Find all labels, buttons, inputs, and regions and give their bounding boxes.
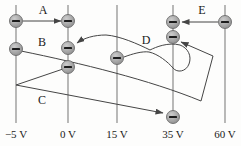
voltage-label-15v: 15 V	[106, 128, 128, 140]
negative-charge	[62, 42, 75, 55]
path-label-B: B	[38, 35, 46, 49]
negative-charge	[167, 31, 180, 44]
negative-charge	[62, 15, 75, 28]
voltage-label--5v: −5 V	[5, 128, 27, 140]
negative-charge	[10, 15, 23, 28]
negative-charge	[219, 16, 232, 29]
negative-charge	[111, 52, 124, 65]
negative-charge	[167, 111, 180, 124]
equipotential-diagram: −5 V0 V15 V35 V60 VABCDE	[0, 0, 241, 146]
path-label-D: D	[142, 33, 151, 47]
negative-charge	[62, 61, 75, 74]
minus-sign-icon	[113, 57, 121, 59]
minus-sign-icon	[12, 48, 20, 50]
voltage-label-0v: 0 V	[60, 128, 76, 140]
voltage-label-35v: 35 V	[162, 128, 184, 140]
minus-sign-icon	[64, 47, 72, 49]
diagram-canvas: −5 V0 V15 V35 V60 VABCDE	[0, 0, 241, 146]
negative-charge	[10, 43, 23, 56]
minus-sign-icon	[64, 20, 72, 22]
minus-sign-icon	[169, 36, 177, 38]
minus-sign-icon	[169, 116, 177, 118]
negative-charge	[167, 16, 180, 29]
minus-sign-icon	[64, 66, 72, 68]
path-label-C: C	[38, 93, 46, 107]
minus-sign-icon	[169, 21, 177, 23]
minus-sign-icon	[221, 21, 229, 23]
minus-sign-icon	[12, 20, 20, 22]
path-label-A: A	[39, 3, 48, 17]
path-label-E: E	[198, 3, 205, 17]
voltage-label-60v: 60 V	[214, 128, 236, 140]
